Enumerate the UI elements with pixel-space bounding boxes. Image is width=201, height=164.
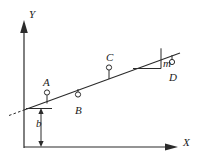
line-dashed-extension	[9, 110, 24, 116]
point-marker-c	[106, 65, 111, 79]
point-marker-b	[75, 89, 80, 97]
intercept-label-b: b	[36, 118, 42, 129]
x-axis	[24, 143, 178, 150]
point-label-d: D	[169, 72, 177, 83]
figure-canvas: Y X A B C D m b	[0, 0, 201, 164]
point-label-a: A	[43, 77, 50, 88]
x-axis-label: X	[183, 137, 190, 148]
y-axis	[20, 20, 28, 148]
slope-label-m: m	[163, 58, 171, 69]
point-label-c: C	[106, 52, 113, 63]
y-axis-label: Y	[29, 9, 35, 20]
point-label-b: B	[75, 105, 82, 116]
